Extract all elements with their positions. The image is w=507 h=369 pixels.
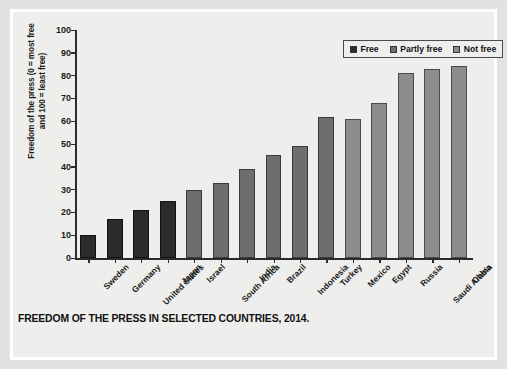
y-axis-tick-label: 0 bbox=[45, 253, 71, 263]
y-axis-tick-label: 50 bbox=[45, 139, 71, 149]
legend-label: Partly free bbox=[400, 44, 442, 54]
y-axis-tick-label: 60 bbox=[45, 116, 71, 126]
bar-turkey bbox=[318, 117, 334, 258]
x-axis-tick-mark bbox=[221, 259, 222, 263]
y-axis-tick-label: 70 bbox=[45, 93, 71, 103]
x-axis-label-china: China bbox=[470, 262, 494, 286]
x-axis-tick-mark bbox=[141, 259, 142, 263]
bar-south-africa bbox=[213, 183, 229, 258]
x-axis-tick-mark bbox=[115, 259, 116, 263]
bar-india bbox=[239, 169, 255, 258]
x-axis-tick-mark bbox=[300, 259, 301, 263]
x-axis-label-israel: Israel bbox=[205, 262, 228, 285]
legend-item-partly-free: Partly free bbox=[390, 44, 443, 54]
y-axis-tick-label: 40 bbox=[45, 162, 71, 172]
x-axis-label-sweden: Sweden bbox=[101, 262, 130, 291]
bar-brazil bbox=[266, 155, 282, 258]
bar-egypt bbox=[371, 103, 387, 258]
x-axis-tick-mark bbox=[194, 259, 195, 263]
legend-item-free: Free bbox=[350, 44, 379, 54]
legend-label: Not free bbox=[464, 44, 496, 54]
bar-russia bbox=[398, 73, 414, 258]
x-axis-tick-mark bbox=[459, 259, 460, 263]
bar-indonesia bbox=[292, 146, 308, 258]
y-axis-tick-label: 90 bbox=[45, 48, 71, 58]
bar-mexico bbox=[345, 119, 361, 258]
y-axis-tick-label: 30 bbox=[45, 185, 71, 195]
y-axis-tick-label: 20 bbox=[45, 207, 71, 217]
bars-plot-area bbox=[75, 30, 472, 258]
x-axis-tick-mark bbox=[274, 259, 275, 263]
x-axis-tick-mark bbox=[168, 259, 169, 263]
bar-china bbox=[451, 66, 467, 258]
x-axis-tick-mark bbox=[88, 259, 89, 263]
x-axis-tick-mark bbox=[379, 259, 380, 263]
bar-israel bbox=[186, 190, 202, 258]
y-axis-title-line1: Freedom of the press (0 = most free bbox=[27, 23, 36, 159]
x-axis-label-egypt: Egypt bbox=[390, 262, 414, 286]
legend-item-not-free: Not free bbox=[453, 44, 496, 54]
bar-germany bbox=[107, 219, 123, 258]
y-axis-tick-label: 80 bbox=[45, 71, 71, 81]
legend-swatch-icon bbox=[390, 46, 397, 53]
x-axis-label-germany: Germany bbox=[129, 262, 162, 295]
x-axis-tick-mark bbox=[432, 259, 433, 263]
x-axis-tick-mark bbox=[406, 259, 407, 263]
legend-swatch-icon bbox=[453, 46, 460, 53]
y-axis-tick-label: 10 bbox=[45, 230, 71, 240]
figure-container: Freedom of the press (0 = most free and … bbox=[0, 0, 507, 369]
x-axis-label-mexico: Mexico bbox=[365, 262, 392, 289]
chart-plot-wrapper: Freedom of the press (0 = most free and … bbox=[13, 12, 500, 363]
y-axis-tick-label: 100 bbox=[45, 25, 71, 35]
bar-saudi-arabia bbox=[424, 69, 440, 258]
x-axis-label-russia: Russia bbox=[418, 262, 444, 288]
figure-caption: FREEDOM OF THE PRESS IN SELECTED COUNTRI… bbox=[18, 313, 309, 324]
legend-label: Free bbox=[361, 44, 379, 54]
x-axis-tick-mark bbox=[326, 259, 327, 263]
bar-sweden bbox=[80, 235, 96, 258]
x-axis-tick-mark bbox=[247, 259, 248, 263]
bar-united-states bbox=[133, 210, 149, 258]
bar-japan bbox=[160, 201, 176, 258]
figure-inner-frame: Freedom of the press (0 = most free and … bbox=[10, 9, 497, 360]
chart-legend: FreePartly freeNot free bbox=[343, 40, 503, 58]
x-axis-label-brazil: Brazil bbox=[284, 262, 307, 285]
x-axis-tick-mark bbox=[353, 259, 354, 263]
legend-swatch-icon bbox=[350, 46, 357, 53]
